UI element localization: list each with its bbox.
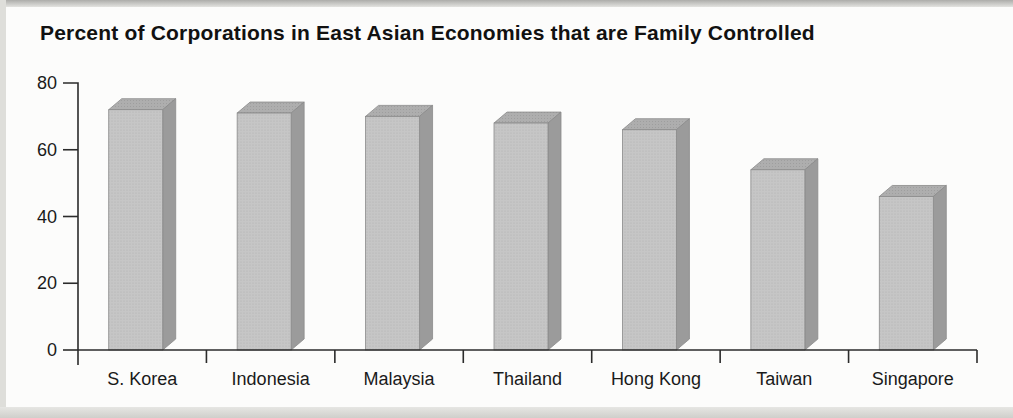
bar-s-korea-front-face: [109, 110, 163, 350]
bar-hong-kong-side-face: [676, 119, 689, 350]
bar-taiwan-front-face: [751, 170, 805, 350]
y-tick-label-80: 80: [37, 73, 57, 93]
bar-chart-canvas: 020406080S. KoreaIndonesiaMalaysiaThaila…: [0, 0, 1013, 418]
category-label-hong-kong: Hong Kong: [611, 369, 701, 389]
category-label-thailand: Thailand: [493, 369, 562, 389]
y-axis: [63, 83, 78, 365]
category-label-taiwan: Taiwan: [756, 369, 812, 389]
y-tick-label-0: 0: [47, 340, 57, 360]
y-tick-label-40: 40: [37, 207, 57, 227]
y-tick-label-60: 60: [37, 140, 57, 160]
bar-indonesia-side-face: [291, 102, 304, 350]
bar-chart: 020406080S. KoreaIndonesiaMalaysiaThaila…: [0, 0, 1013, 418]
bar-s-korea-side-face: [163, 99, 176, 350]
bar-taiwan-side-face: [805, 159, 818, 350]
bar-thailand-front-face: [494, 123, 548, 350]
bar-singapore-front-face: [879, 196, 933, 350]
bar-thailand-side-face: [548, 112, 561, 350]
bar-indonesia-front-face: [237, 113, 291, 350]
scanned-figure-page: Percent of Corporations in East Asian Ec…: [0, 0, 1013, 418]
bar-singapore-side-face: [933, 185, 946, 350]
category-label-singapore: Singapore: [872, 369, 954, 389]
category-label-indonesia: Indonesia: [232, 369, 311, 389]
bar-malaysia-side-face: [420, 105, 433, 350]
category-label-s-korea: S. Korea: [107, 369, 178, 389]
bar-hong-kong-front-face: [622, 130, 676, 350]
bar-malaysia-front-face: [366, 116, 420, 350]
category-label-malaysia: Malaysia: [364, 369, 436, 389]
y-tick-label-20: 20: [37, 273, 57, 293]
